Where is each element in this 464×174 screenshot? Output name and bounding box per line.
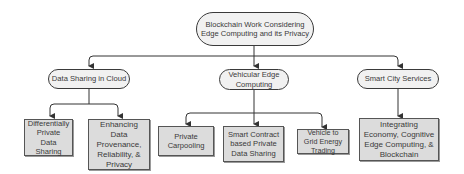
leaf-node-smart-contract: Smart Contract based Private Data Sharin… [223,126,284,162]
category-label: Vehicular Edge Computing [220,70,288,89]
leaf-node-data-provenance: Enhancing Data Provenance, Reliability, … [88,119,150,170]
leaf-label: Enhancing Data Provenance, Reliability, … [92,120,146,170]
category-node-vehicular: Vehicular Edge Computing [219,69,289,90]
root-label: Blockchain Work Considering Edge Computi… [197,20,313,39]
leaf-label: Vehicle to Grid Energy Trading [300,128,346,155]
leaf-label: Private Carpooling [162,132,210,151]
category-node-smart-city: Smart City Services [357,69,439,89]
category-label: Data Sharing in Cloud [52,74,126,83]
leaf-label: Differentially Private Data Sharing [28,119,70,157]
leaf-node-v2g-trading: Vehicle to Grid Energy Trading [297,129,349,154]
root-node: Blockchain Work Considering Edge Computi… [196,12,314,46]
leaf-label: Smart Contract based Private Data Sharin… [227,130,280,158]
leaf-node-integrating-economy: Integrating Economy, Cognitive Edge Comp… [359,118,439,161]
category-node-cloud: Data Sharing in Cloud [48,69,130,89]
leaf-node-private-carpooling: Private Carpooling [158,126,214,156]
leaf-label: Integrating Economy, Cognitive Edge Comp… [363,120,435,160]
category-label: Smart City Services [365,74,432,83]
leaf-node-differential-privacy: Differentially Private Data Sharing [24,119,73,156]
